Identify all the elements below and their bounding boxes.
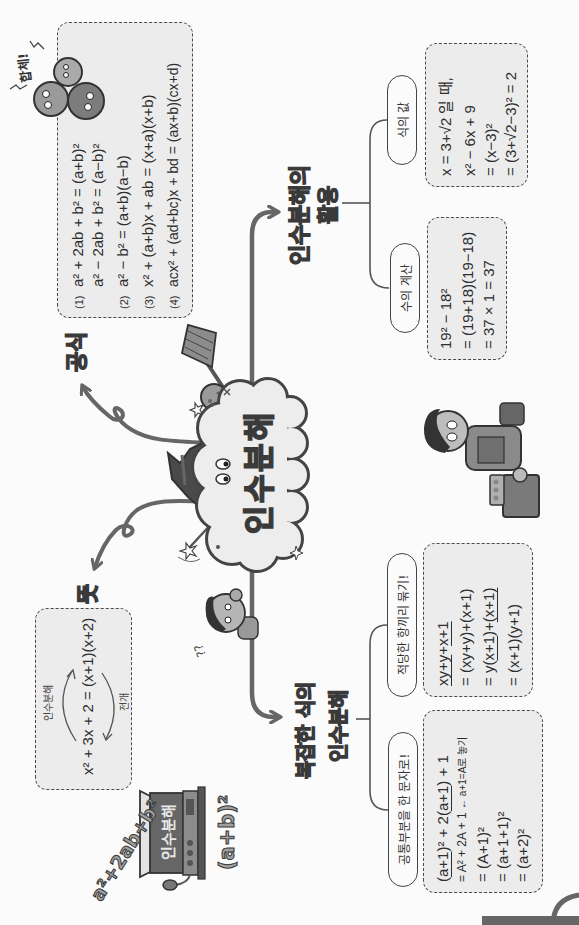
calc-line: 19² − 18²	[436, 289, 456, 349]
substitution-line: = A² + 2A + 1 ← a+1=A로 놓기	[452, 737, 472, 882]
grouping-line: = y(x+1)+(x+1)	[479, 588, 499, 686]
term: = (a+1+1)²	[494, 812, 511, 882]
meaning-box: 인수분해 x² + 3x + 2 = (x+1)(x+2) 전개	[35, 608, 132, 790]
formula-row: (1)a² + 2ab + b² = (a+b)²	[68, 144, 88, 309]
term: = (x+1)(y+1)	[505, 604, 522, 686]
term: = A² + 2A + 1	[455, 809, 469, 882]
formula-text: acx² + (ad+bc)x + bd = (ax+b)(cx+d)	[165, 63, 181, 287]
underlined-term: xy+y	[434, 655, 451, 686]
grouping-terms-box: xy+y+x+1 = (xy+y)+(x+1) = y(x+1)+(x+1) =…	[423, 543, 533, 697]
squared-expression-decoration: (a+b)²	[217, 795, 238, 870]
radio-sign-text: 인수분해	[157, 799, 178, 865]
formula-text: a² − 2ab + b² = (a−b)²	[89, 144, 106, 287]
underlined-term: a+1	[434, 786, 451, 811]
application-bracket	[342, 120, 389, 288]
term: = (A+1)²	[474, 827, 491, 882]
meaning-equation: x² + 3x + 2 = (x+1)(x+2)	[78, 618, 98, 775]
formula-number: (3)	[139, 287, 159, 309]
grouping-terms-pill: 적당한 항끼리 묶기!	[387, 553, 417, 697]
term: )² + 2(	[434, 811, 451, 851]
substitution-line: = (A+1)²	[473, 827, 493, 882]
value-line: x² − 6x + 9	[460, 105, 480, 176]
formula-text: x² + (a+b)x + ab = (x+a)(x+b)	[139, 94, 156, 287]
term: )+	[480, 622, 497, 636]
arrow-to-formulas	[83, 387, 210, 443]
calc-line: = 37 × 1 = 37	[479, 260, 499, 349]
formula-row: (3)x² + (a+b)x + ab = (x+a)(x+b)	[138, 94, 158, 309]
formulas-box: (1)a² + 2ab + b² = (a+b)² a² − 2ab + b² …	[57, 22, 193, 318]
application-label-line2: 활용	[318, 186, 339, 224]
underlined-term: x+1	[480, 636, 497, 661]
formula-text: a² − b² = (a+b)(a−b)	[114, 155, 131, 287]
formula-number: (4)	[164, 287, 184, 309]
calc-line: = (19+18)(19−18)	[458, 232, 478, 349]
common-part-substitution-pill: 공통부분을 한 문자로!	[388, 732, 418, 887]
term: ) + 1	[434, 755, 451, 785]
value-line: x = 3+√2 일 때,	[436, 77, 456, 176]
expansion-arrow-label: 전개	[116, 693, 131, 711]
common-part-substitution-box: (a+1)² + 2(a+1) + 1 = A² + 2A + 1 ← a+1=…	[423, 710, 543, 893]
term: = (xy+y)+(x+1)	[457, 588, 474, 686]
value-of-expression-pill: 식의 값	[387, 75, 417, 165]
application-label-line1: 인수분해의	[289, 165, 311, 265]
meaning-label: 뜻	[77, 584, 99, 604]
term: (	[434, 877, 451, 882]
number-calculation-pill: 수의 계산	[390, 243, 420, 333]
grouping-line: = (x+1)(y+1)	[504, 604, 524, 686]
merge-shout-text: 합체!	[12, 52, 34, 84]
value-line: = (3+√2−3)² = 2	[501, 72, 521, 176]
formulas-label: 공식	[66, 332, 88, 372]
formula-text: a² + 2ab + b² = (a+b)²	[69, 144, 86, 287]
underlined-term: (x+1)	[480, 588, 497, 623]
value-of-expression-box: x = 3+√2 일 때, x² − 6x + 9 = (x−3)² = (3+…	[425, 43, 528, 187]
formula-number: (2)	[114, 287, 134, 309]
center-title: 인수분해	[238, 400, 280, 544]
term: +	[434, 646, 451, 655]
grouping-line: xy+y+x+1	[433, 621, 453, 686]
arrow-to-meaning	[95, 501, 210, 567]
substitution-note: ← a+1=A로 놓기	[457, 737, 468, 809]
complex-bracket	[356, 625, 388, 810]
number-calculation-box: 19² − 18² = (19+18)(19−18) = 37 × 1 = 37	[427, 217, 507, 360]
complex-label-line1: 복잡한 식의	[296, 682, 316, 779]
substitution-line: = (a+2)²	[513, 829, 533, 882]
term: = y(	[480, 661, 497, 686]
formula-row: (4)acx² + (ad+bc)x + bd = (ax+b)(cx+d)	[163, 63, 183, 309]
substitution-line: (a+1)² + 2(a+1) + 1	[433, 755, 453, 882]
formula-row: a² − 2ab + b² = (a−b)²	[88, 144, 108, 309]
corner-arc-decoration	[482, 895, 579, 925]
boy-with-blocks-icon	[424, 403, 539, 517]
formula-row: (2)a² − b² = (a+b)(a−b)	[113, 155, 133, 309]
factorization-arc-arrow	[63, 671, 76, 741]
mind-map-page: 인수분해 공식 (1)a² + 2ab + b² = (a+b)² a² − 2…	[0, 0, 579, 925]
grouping-line: = (xy+y)+(x+1)	[456, 588, 476, 686]
value-line: = (x−3)²	[481, 123, 501, 176]
term: = (a+2)²	[514, 829, 531, 882]
underlined-term: x+1	[434, 621, 451, 646]
expansion-arc-arrow	[102, 673, 114, 739]
complex-label-line2: 인수분해	[329, 690, 349, 762]
arrow-to-application	[252, 212, 276, 385]
formula-number: (1)	[69, 287, 89, 309]
underlined-term: a+1	[434, 852, 451, 877]
substitution-line: = (a+1+1)²	[493, 812, 513, 882]
